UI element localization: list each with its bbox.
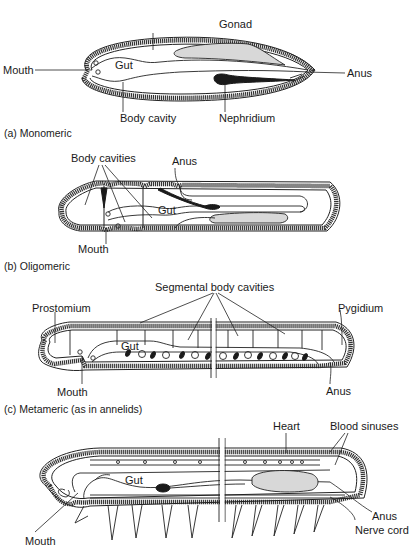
caption-a: (a) Monomeric xyxy=(4,127,72,139)
caption-c: (c) Metameric (as in annelids) xyxy=(4,403,142,415)
nephridia xyxy=(125,349,309,361)
label-gut: Gut xyxy=(125,474,143,486)
label-pygidium: Pygidium xyxy=(338,302,383,314)
label-gut: Gut xyxy=(158,204,176,216)
caption-b: (b) Oligomeric xyxy=(4,260,70,272)
nerve-cord xyxy=(90,495,345,498)
label-gut: Gut xyxy=(121,340,139,352)
gonad xyxy=(210,213,288,223)
label-anus: Anus xyxy=(347,67,373,79)
label-segmental-body-cavities: Segmental body cavities xyxy=(155,281,275,293)
label-blood-sinuses: Blood sinuses xyxy=(330,420,399,432)
heart xyxy=(90,460,320,465)
label-anus: Anus xyxy=(372,510,398,522)
label-mouth: Mouth xyxy=(25,535,56,547)
label-mouth: Mouth xyxy=(3,64,34,76)
label-body-cavity: Body cavity xyxy=(120,112,177,124)
label-anus: Anus xyxy=(172,155,198,167)
label-body-cavities: Body cavities xyxy=(71,152,136,164)
label-nephridium: Nephridium xyxy=(219,112,275,124)
label-gut: Gut xyxy=(115,59,133,71)
panel-a-monomeric: Gonad Mouth Gut Anus Body cavity Nephrid… xyxy=(3,18,373,139)
panel-c-metameric: Segmental body cavities Prostomium Pygid… xyxy=(4,281,383,415)
panel-b-oligomeric: Body cavities Anus Gut Mouth (b) Oligome… xyxy=(4,152,340,272)
label-mouth: Mouth xyxy=(57,386,88,398)
panel-d-haemocoel: Heart Blood sinuses Gut Anus Nerve cord … xyxy=(25,420,409,547)
legs xyxy=(75,505,324,540)
label-prostomium: Prostomium xyxy=(32,302,91,314)
label-mouth: Mouth xyxy=(78,243,109,255)
nephridium xyxy=(214,74,295,85)
label-anus: Anus xyxy=(326,385,352,397)
label-gonad: Gonad xyxy=(219,18,252,30)
label-heart: Heart xyxy=(273,420,300,432)
gonad xyxy=(252,471,318,492)
label-nerve-cord: Nerve cord xyxy=(355,524,409,536)
